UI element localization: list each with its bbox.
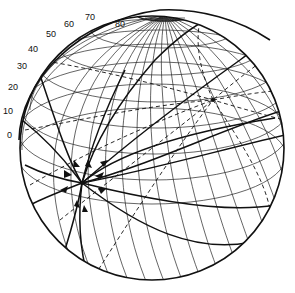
scale-label-20: 20 bbox=[8, 83, 18, 92]
scale-label-30: 30 bbox=[17, 62, 27, 71]
globe-svg bbox=[0, 0, 295, 293]
convergence-point-right bbox=[211, 98, 215, 102]
convergence-point-left bbox=[80, 181, 84, 185]
scale-label-50: 50 bbox=[46, 30, 56, 39]
scale-label-10: 10 bbox=[3, 107, 13, 116]
dashed-great-circles bbox=[25, 20, 284, 275]
scale-label-60: 60 bbox=[64, 20, 74, 29]
parallel-lines bbox=[18, 9, 289, 204]
scale-label-70: 70 bbox=[85, 13, 95, 22]
scale-label-40: 40 bbox=[28, 45, 38, 54]
scale-label-80: 80 bbox=[115, 20, 125, 29]
scale-label-0: 0 bbox=[7, 131, 12, 140]
globe-diagram: 0 10 20 30 40 50 60 70 80 bbox=[0, 0, 295, 293]
